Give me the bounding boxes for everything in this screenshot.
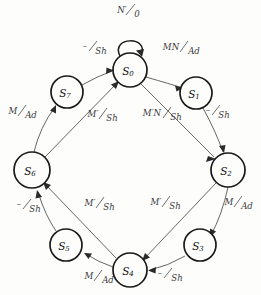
state-node-S5[interactable]: S5 — [50, 229, 82, 261]
edge-label-output-s1-s2: Sh — [218, 110, 229, 120]
arrow-head-s3-s4 — [148, 267, 156, 274]
edge-label-s6-s0: M′ Sh — [87, 108, 118, 123]
edge-label-output-s0-self: 0 — [134, 9, 140, 19]
edge-label-output-s5-s6: Sh — [29, 204, 40, 214]
edge-label-s0-s1: MN Ad — [162, 41, 201, 56]
arrow-head-s5-s6 — [36, 190, 43, 199]
transition-s4-to-s5[interactable] — [84, 253, 113, 267]
edge-label-input-s3-s4: – — [158, 268, 162, 278]
edge-label-output-s4-s6: Sh — [103, 202, 114, 212]
edge-label-s4-s6: M′ Sh — [84, 197, 115, 212]
edge-label-output-s6-s7: Ad — [24, 110, 37, 120]
state-node-S6[interactable]: S6 — [14, 152, 50, 188]
edge-label-s0-s2: M′N Sh — [142, 107, 182, 122]
edge-label-input-s1-s2: – — [206, 105, 210, 115]
transition-s6-to-s7[interactable] — [34, 105, 56, 152]
edge-label-input-s2-s4: M′ — [150, 197, 162, 207]
edge-label-input-s0-s1: MN — [162, 42, 180, 52]
state-node-S7[interactable]: S7 — [51, 76, 83, 108]
edge-label-s6-s7: M Ad — [8, 105, 38, 120]
edge-label-output-s6-s0: Sh — [106, 113, 117, 123]
edge-label-s7-s0: – Sh — [83, 41, 107, 56]
arrow-head-s4-s5 — [84, 253, 92, 259]
state-diagram-canvas: S0 S1 S2 S3 S4 S5 S6 S7 — [0, 0, 261, 295]
edge-label-input-s6-s0: M′ — [87, 109, 99, 119]
edge-label-s3-s4: – Sh — [158, 268, 183, 283]
edge-label-output-s2-s4: Sh — [169, 201, 180, 211]
fraction-bar-s0-s1 — [180, 41, 188, 52]
state-node-S0[interactable]: S0 — [113, 53, 147, 87]
transition-s0-to-s1[interactable] — [146, 77, 183, 92]
edge-label-input-s7-s0: – — [83, 41, 87, 51]
edge-label-s0-self: N′ 0 — [116, 4, 140, 19]
edge-label-input-s4-s6: M′ — [84, 198, 96, 208]
transition-s2-to-s3[interactable] — [210, 187, 228, 237]
state-node-S4[interactable]: S4 — [113, 253, 147, 287]
edge-label-s2-s3: M Ad — [224, 196, 254, 211]
edge-path-s6-s7 — [34, 107, 55, 152]
state-node-S3[interactable]: S3 — [184, 229, 216, 261]
edge-label-input-s0-self: N′ — [116, 5, 127, 15]
edge-path-s2-s3 — [211, 187, 228, 235]
arrow-head-s1-s2 — [219, 145, 226, 153]
state-transition-diagram: S0 S1 S2 S3 S4 S5 S6 S7 — [0, 0, 261, 295]
edge-label-input-s2-s3: M — [224, 197, 234, 207]
transition-s7-to-s0[interactable] — [82, 68, 114, 86]
edge-label-s1-s2: – Sh — [206, 105, 230, 120]
edge-label-s5-s6: – Sh — [17, 199, 41, 214]
edge-label-output-s2-s3: Ad — [240, 201, 253, 211]
fraction-bar-s4-s5 — [94, 270, 102, 281]
edge-label-output-s4-s5: Ad — [101, 275, 114, 285]
edge-label-s4-s5: M Ad — [84, 270, 115, 285]
edge-label-output-s0-s1: Ad — [187, 46, 200, 56]
edge-label-input-s5-s6: – — [17, 199, 21, 209]
edge-label-input-s6-s7: M — [8, 106, 18, 116]
edge-label-output-s0-s2: Sh — [170, 112, 181, 122]
edge-label-output-s3-s4: Sh — [171, 273, 182, 283]
transition-s3-to-s4[interactable] — [148, 256, 185, 274]
state-node-S2[interactable]: S2 — [211, 153, 245, 187]
edge-label-output-s7-s0: Sh — [95, 46, 106, 56]
edge-label-input-s4-s5: M — [84, 271, 94, 281]
edge-label-input-s0-s2: M′N — [142, 108, 162, 118]
edge-label-s2-s4: M′ Sh — [150, 196, 181, 211]
